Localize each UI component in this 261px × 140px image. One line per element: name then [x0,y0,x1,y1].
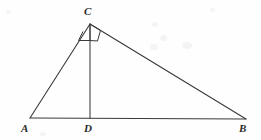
geometry-canvas [0,0,261,140]
segment-side-AB [30,118,246,119]
right-angle-mark-at-C [79,24,101,41]
vertex-label-a: A [21,123,28,134]
vertex-label-b: B [239,123,246,134]
triangle-outline [30,24,246,119]
segment-side-AC [30,24,90,118]
geometry-figure: C A D B [0,0,261,140]
segment-side-CB [90,24,246,119]
right-angle-at-C-right-icon [90,24,101,41]
vertex-label-d: D [84,123,92,134]
vertex-label-c: C [84,6,91,17]
